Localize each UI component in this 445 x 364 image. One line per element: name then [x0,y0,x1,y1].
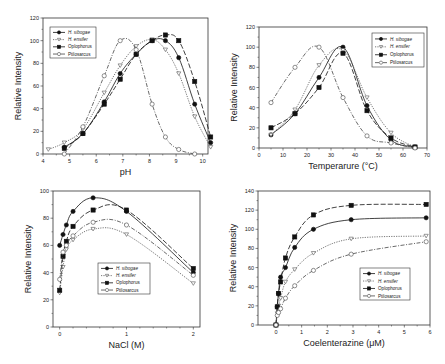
x-axis-ticks: 012 [58,327,195,337]
data-point-marker [311,268,315,272]
x-tick-label: 6 [95,158,98,164]
coelenterazine-chart: 0204060801001201400123456Coelenterazine … [228,188,432,348]
legend-entry: H. ensifer [68,37,88,42]
legend: H. sibogaeH. ensiferOplophorusPtilosarcu… [360,268,410,300]
x-tick-label: 0 [257,152,260,158]
x-tick-label: 10 [200,158,206,164]
x-tick-label: 0 [274,329,277,335]
legend: H. sibogaeH. ensiferOplophorusPtilosarcu… [50,27,96,58]
data-point-marker [81,125,85,129]
data-point-marker [269,101,273,105]
data-point-marker [293,284,297,288]
y-tick-label: 120 [246,24,255,30]
data-point-marker [57,31,60,34]
x-axis-label: pH [120,167,132,177]
y-tick-label: 0 [252,145,255,151]
data-point-marker [193,115,197,119]
y-tick-label: 80 [43,215,49,221]
y-tick-label: 60 [248,265,254,271]
figure-panels: 02040608010012045678910pHRelative Intens… [0,0,445,364]
x-tick-label: 5 [403,329,406,335]
data-point-marker [191,282,195,286]
data-point-marker [209,146,213,150]
x-tick-label: 4 [377,329,380,335]
data-point-marker [177,56,181,60]
y-tick-label: 20 [249,125,255,131]
data-point-marker [102,74,106,78]
data-point-marker [413,146,417,150]
y-tick-label: 120 [245,207,254,213]
y-tick-label: 40 [43,270,49,276]
data-point-marker [150,102,154,106]
x-axis-label: NaCl (M) [109,340,145,350]
data-point-marker [379,61,382,64]
y-axis-ticks: 020406080100120140 [245,188,258,328]
data-point-marker [61,232,65,236]
data-point-marker [105,281,108,284]
data-point-marker [163,135,167,139]
legend-entry: Ptilosarcus [378,294,401,299]
data-point-marker [424,240,428,244]
data-point-marker [58,243,62,247]
ph-chart: 02040608010012045678910pHRelative Intens… [13,15,213,177]
legend-entry: H. sibogae [68,30,90,35]
x-tick-label: 20 [304,152,310,158]
data-point-marker [71,224,75,228]
legend: H. sibogaeH. ensiferOplophorusPtilosarcu… [372,33,424,67]
data-point-marker [424,216,428,220]
data-point-marker [274,323,278,327]
data-point-marker [118,64,122,68]
y-tick-label: 100 [246,44,255,50]
data-point-marker [193,79,197,83]
data-point-marker [57,45,60,48]
data-point-marker [177,147,181,151]
data-point-marker [341,95,345,99]
data-point-marker [389,136,393,140]
y-axis-ticks: 020406080100120 [246,24,259,151]
legend-entry: Ptilosarcus [116,288,139,293]
data-point-marker [118,77,122,81]
x-tick-label: 7 [121,158,124,164]
data-point-marker [62,141,66,145]
x-tick-label: 10 [280,152,286,158]
y-tick-label: 40 [248,284,254,290]
data-point-marker [365,104,369,108]
data-point-marker [283,256,287,260]
legend-entry: Oplophorus [116,280,140,285]
data-point-marker [134,48,138,52]
data-point-marker [193,152,197,156]
y-tick-label: 60 [249,85,255,91]
data-point-marker [102,91,106,95]
x-tick-label: 3 [351,329,354,335]
data-point-marker [349,203,353,207]
y-tick-label: 100 [30,38,39,44]
y-tick-label: 20 [33,128,39,134]
x-tick-label: 5 [68,158,71,164]
data-point-marker [191,266,195,270]
data-point-marker [61,254,65,258]
data-point-marker [365,109,369,113]
data-point-marker [62,146,66,150]
legend-entry: Oplophorus [390,52,414,57]
y-tick-label: 80 [248,245,254,251]
data-point-marker [389,141,393,145]
y-tick-label: 0 [251,322,254,328]
data-point-marker [424,202,428,206]
data-point-marker [150,39,154,43]
y-tick-label: 20 [248,303,254,309]
y-tick-label: 0 [46,324,49,330]
data-point-marker [367,294,370,297]
legend-entry: H. ensifer [116,273,136,278]
x-tick-label: 1 [125,331,128,337]
y-tick-label: 80 [249,64,255,70]
data-point-marker [58,288,62,292]
data-point-marker [365,134,369,138]
data-point-marker [163,33,167,37]
data-point-marker [269,126,273,130]
data-point-marker [293,245,297,249]
data-point-marker [71,209,75,213]
data-point-marker [91,208,95,212]
x-tick-label: 60 [400,152,406,158]
y-tick-label: 60 [43,242,49,248]
data-point-marker [349,218,353,222]
